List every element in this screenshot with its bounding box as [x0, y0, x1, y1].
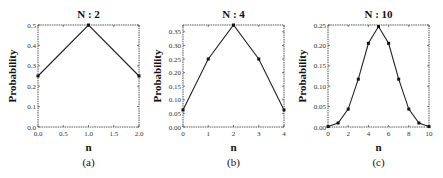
data-point-marker	[37, 75, 40, 78]
data-point-marker	[327, 125, 330, 128]
x-tick-label: 10	[426, 130, 434, 138]
y-axis-label: Probability	[6, 49, 18, 102]
y-tick-label: 0.1	[27, 103, 36, 111]
y-tick-label: 0.2	[27, 83, 36, 91]
x-tick-label: 0	[326, 130, 330, 138]
data-point-marker	[397, 78, 400, 81]
data-point-marker	[232, 24, 235, 27]
x-tick-label: 8	[407, 130, 411, 138]
chart-title: N : 4	[222, 8, 245, 20]
y-tick-label: 0.00	[314, 124, 327, 132]
x-axis-label: n	[230, 141, 236, 153]
data-line	[328, 27, 429, 127]
data-point-marker	[138, 75, 141, 78]
data-line	[183, 25, 284, 110]
chart-title: N : 2	[77, 8, 100, 20]
y-tick-label: 0.3	[27, 62, 36, 70]
y-tick-label: 0.25	[169, 56, 182, 64]
x-tick-label: 2.0	[135, 130, 144, 138]
x-tick-label: 1.5	[109, 130, 118, 138]
chart-panel-a: N : 20.00.10.20.30.40.50.00.51.01.52.0Pr…	[6, 8, 144, 169]
x-tick-label: 2	[346, 130, 350, 138]
data-point-marker	[337, 122, 340, 125]
x-tick-label: 1.0	[84, 130, 93, 138]
chart-title: N : 10	[364, 8, 393, 20]
data-point-marker	[257, 58, 260, 61]
y-axis-label: Probability	[296, 49, 308, 102]
data-point-marker	[357, 78, 360, 81]
y-tick-label: 0.10	[169, 96, 182, 104]
data-point-marker	[367, 42, 370, 45]
x-tick-label: 2	[232, 130, 236, 138]
x-tick-label: 4	[367, 130, 371, 138]
x-tick-label: 4	[282, 130, 286, 138]
panel-caption: (c)	[372, 156, 385, 169]
x-tick-label: 0	[181, 130, 185, 138]
plot-frame	[38, 25, 139, 127]
y-tick-label: 0.10	[314, 83, 327, 91]
y-tick-label: 0.05	[314, 103, 327, 111]
data-point-marker	[87, 24, 90, 27]
chart-panel-b: N : 40.000.050.100.150.200.250.300.35012…	[151, 8, 286, 169]
x-tick-label: 0.5	[59, 130, 68, 138]
y-tick-label: 0.20	[169, 69, 182, 77]
plot-frame	[328, 25, 429, 127]
y-tick-label: 0.4	[27, 42, 36, 50]
y-tick-label: 0.35	[169, 28, 182, 36]
panel-caption: (b)	[227, 156, 240, 169]
data-point-marker	[417, 122, 420, 125]
data-point-marker	[387, 42, 390, 45]
x-axis-label: n	[375, 141, 381, 153]
y-tick-label: 0.20	[314, 42, 327, 50]
chart-panel-c: N : 100.000.050.100.150.200.250246810Pro…	[296, 8, 433, 169]
data-point-marker	[207, 58, 210, 61]
panel-caption: (a)	[82, 156, 95, 169]
y-tick-label: 0.15	[169, 83, 182, 91]
y-tick-label: 0.5	[27, 22, 36, 30]
data-point-marker	[407, 108, 410, 111]
x-tick-label: 3	[257, 130, 261, 138]
data-point-marker	[347, 108, 350, 111]
y-tick-label: 0.25	[314, 22, 327, 30]
x-tick-label: 6	[387, 130, 391, 138]
data-point-marker	[283, 109, 286, 112]
data-point-marker	[428, 125, 431, 128]
data-point-marker	[182, 109, 185, 112]
figure: N : 20.00.10.20.30.40.50.00.51.01.52.0Pr…	[0, 0, 443, 178]
x-tick-label: 1	[207, 130, 211, 138]
data-line	[38, 25, 139, 76]
y-axis-label: Probability	[151, 49, 163, 102]
y-tick-label: 0.15	[314, 62, 327, 70]
y-tick-label: 0.05	[169, 110, 182, 118]
x-axis-label: n	[85, 141, 91, 153]
y-tick-label: 0.30	[169, 42, 182, 50]
plot-frame	[183, 25, 284, 127]
y-tick-label: 0.00	[169, 124, 182, 132]
data-point-marker	[377, 25, 380, 28]
x-tick-label: 0.0	[34, 130, 43, 138]
